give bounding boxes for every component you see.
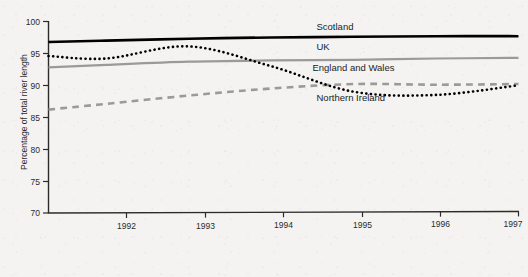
y-tick-group — [43, 22, 49, 214]
line-chart: 100 95 90 85 80 75 70 1992 1993 1994 199… — [0, 0, 528, 277]
x-tick-label-1992: 1992 — [117, 221, 136, 231]
x-tick-label-1997: 1997 — [504, 219, 523, 229]
x-tick-label-1994: 1994 — [274, 220, 293, 230]
y-tick-label-90: 90 — [31, 81, 41, 91]
y-tick-label-80: 80 — [31, 145, 41, 155]
series-line-uk — [49, 58, 519, 68]
series-line-northern-ireland — [49, 46, 519, 95]
series-layer — [49, 36, 519, 109]
series-line-england-and-wales — [49, 84, 519, 110]
series-label-uk: UK — [317, 41, 331, 52]
series-label-england-and-wales: England and Wales — [312, 62, 394, 73]
x-tick-label-1993: 1993 — [196, 221, 215, 231]
y-axis-title: Percentage of total river length — [19, 54, 29, 170]
y-tick-label-70: 70 — [31, 208, 41, 218]
y-tick-label-75: 75 — [31, 177, 41, 187]
series-label-northern-ireland: Northern Ireland — [317, 92, 386, 103]
series-line-scotland — [49, 36, 519, 42]
axis-group — [49, 21, 520, 214]
y-tick-label-100: 100 — [26, 17, 40, 27]
series-label-scotland: Scotland — [317, 21, 354, 32]
series-label-layer: ScotlandUKEngland and WalesNorthern Irel… — [312, 21, 394, 102]
chart-figure: 100 95 90 85 80 75 70 1992 1993 1994 199… — [0, 0, 528, 277]
y-tick-label-85: 85 — [31, 113, 41, 123]
y-tick-label-95: 95 — [31, 49, 41, 59]
x-tick-label-1996: 1996 — [431, 219, 450, 229]
x-tick-label-1995: 1995 — [353, 220, 372, 230]
x-tick-labels: 1992 1993 1994 1995 1996 1997 — [117, 219, 523, 231]
